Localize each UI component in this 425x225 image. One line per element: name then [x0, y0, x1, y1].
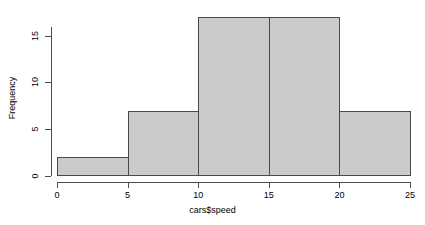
y-axis-tick: [45, 129, 51, 130]
x-axis-line: [57, 182, 410, 183]
x-axis-tick-label: 25: [398, 190, 422, 200]
x-axis-tick-label: 10: [186, 190, 210, 200]
x-axis-tick-label: 20: [327, 190, 351, 200]
y-axis-tick: [45, 176, 51, 177]
y-axis-tick-label: 0: [30, 169, 40, 183]
x-axis-tick-label: 15: [257, 190, 281, 200]
y-axis-line: [51, 27, 52, 176]
y-axis-title: Frequency: [7, 58, 17, 138]
histogram-bar: [269, 17, 341, 176]
x-axis-tick-label: 5: [116, 190, 140, 200]
x-axis-tick: [339, 182, 340, 188]
x-axis-tick: [128, 182, 129, 188]
histogram-bar: [128, 111, 200, 176]
histogram-bar: [57, 157, 129, 176]
x-axis-tick: [410, 182, 411, 188]
x-axis-title: cars$speed: [0, 205, 425, 215]
histogram-bar: [339, 111, 411, 176]
y-axis-tick-label: 10: [30, 75, 40, 89]
x-axis-tick: [198, 182, 199, 188]
x-axis-tick: [57, 182, 58, 188]
histogram-bar: [198, 17, 270, 176]
histogram-figure: 051015 0510152025 cars$speed Frequency: [0, 0, 425, 225]
y-axis-tick-label: 5: [30, 122, 40, 136]
bar-series: [57, 17, 410, 176]
x-axis-tick: [269, 182, 270, 188]
x-axis-tick-label: 0: [45, 190, 69, 200]
y-axis-tick-label: 15: [30, 29, 40, 43]
y-axis-tick: [45, 82, 51, 83]
y-axis-tick: [45, 36, 51, 37]
plot-area: [57, 17, 410, 176]
